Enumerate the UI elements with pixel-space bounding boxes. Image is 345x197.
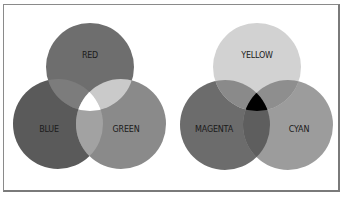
label-magenta: MAGENTA xyxy=(195,125,234,134)
label-blue: BLUE xyxy=(39,125,59,134)
color-venn-diagrams: RED BLUE GREEN YELLOW MAGENTA CYAN xyxy=(0,0,345,197)
additive-venn: RED BLUE GREEN xyxy=(13,23,166,169)
label-cyan: CYAN xyxy=(289,125,310,134)
subtractive-venn: YELLOW MAGENTA CYAN xyxy=(180,23,333,170)
label-yellow: YELLOW xyxy=(240,51,273,60)
label-red: RED xyxy=(82,51,98,60)
label-green: GREEN xyxy=(113,125,140,134)
